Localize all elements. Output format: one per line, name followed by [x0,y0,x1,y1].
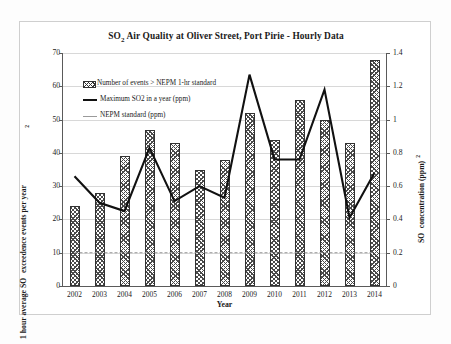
chart-container: SO2 Air Quality at Oliver Street, Port P… [19,21,431,315]
chart-title-rest: Air Quality at Oliver Street, Port Pirie… [125,31,344,41]
y-tick-right-1.2: 1.2 [393,82,423,90]
y-tickmark-right [387,120,390,121]
chart-title-so: SO [108,31,121,41]
legend-item-events: Number of events > NEPM 1-hr standard [83,80,216,88]
x-axis-title: Year [62,300,387,309]
y-tick-left-40: 40 [30,149,60,157]
dashed-line-icon [83,116,97,117]
legend-item-nepm-standard: NEPM standard (ppm) [83,112,216,120]
y-tickmark-right [387,253,390,254]
legend-item-max-so2: Maximum SO2 in a year (ppm) [83,96,216,104]
y-axis-right-label: SO2 concentration (ppm) [415,0,426,127]
y-tick-left-50: 50 [30,116,60,124]
y-axis-left-label: 1 hour average SO2 exceedence events per… [19,0,30,62]
y-tick-right-0.6: 0.6 [393,182,423,190]
y-tickmark-right [387,53,390,54]
legend-label-events: Number of events > NEPM 1-hr standard [97,80,216,88]
y-tick-right-1: 1 [393,116,423,124]
y-tick-left-60: 60 [30,82,60,90]
y-tick-left-0: 0 [30,282,60,290]
y-tick-right-0: 0 [393,282,423,290]
x-tick-2014: 2014 [355,290,395,299]
hatch-swatch-icon [83,81,96,88]
y-tickmark-right [387,286,390,287]
y-tick-left-20: 20 [30,215,60,223]
y-tickmark-right [387,153,390,154]
y-tick-right-1.4: 1.4 [393,49,423,57]
legend-label-max-so2: Maximum SO2 in a year (ppm) [100,96,190,104]
y-tickmark-right [387,186,390,187]
solid-line-icon [83,99,97,101]
y-left-sub: 2 [24,125,30,128]
y-tick-right-0.8: 0.8 [393,149,423,157]
y-right-pre: SO [417,233,426,243]
legend-label-nepm-standard: NEPM standard (ppm) [100,112,165,120]
y-tickmark-right [387,219,390,220]
y-tick-left-30: 30 [30,182,60,190]
screenshot-root: SO2 Air Quality at Oliver Street, Port P… [0,0,451,344]
chart-title: SO2 Air Quality at Oliver Street, Port P… [20,31,432,44]
y-tick-left-10: 10 [30,249,60,257]
y-tick-right-0.4: 0.4 [393,215,423,223]
y-left-post: exceedence events per year [19,185,28,275]
chart-legend: Number of events > NEPM 1-hr standard Ma… [83,80,216,128]
y-tick-left-70: 70 [30,49,60,57]
y-tick-right-0.2: 0.2 [393,249,423,257]
y-tickmark-right [387,86,390,87]
y-left-pre: 1 hour average SO [19,278,28,339]
